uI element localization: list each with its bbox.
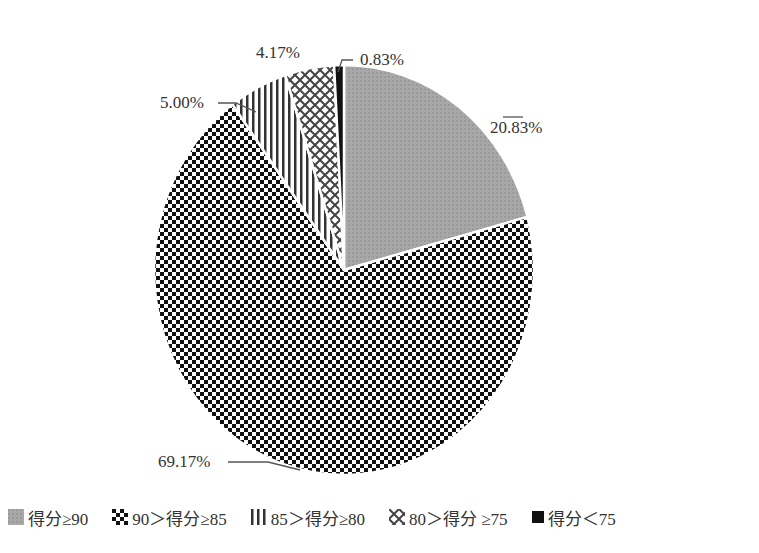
legend-item-4: 得分＜75 bbox=[532, 505, 616, 530]
legend-label: 80＞得分 ≥75 bbox=[409, 505, 508, 530]
slice-label-0: 20.83% bbox=[490, 118, 542, 138]
legend-label: 90＞得分≥85 bbox=[132, 505, 226, 530]
slice-label-4: 0.83% bbox=[360, 50, 404, 70]
legend-item-2: 85＞得分≥80 bbox=[251, 505, 365, 530]
legend-label: 得分≥90 bbox=[28, 505, 88, 530]
legend-item-3: 80＞得分 ≥75 bbox=[389, 505, 508, 530]
swatch-black-icon bbox=[532, 511, 544, 523]
slice-label-1: 69.17% bbox=[158, 452, 210, 472]
slice-label-3: 4.17% bbox=[256, 43, 300, 63]
legend-label: 得分＜75 bbox=[548, 505, 616, 530]
swatch-gray-icon bbox=[8, 509, 24, 525]
legend-label: 85＞得分≥80 bbox=[271, 505, 365, 530]
pie-chart bbox=[0, 0, 759, 500]
legend-item-1: 90＞得分≥85 bbox=[112, 505, 226, 530]
legend-item-0: 得分≥90 bbox=[8, 505, 88, 530]
legend: 得分≥90 90＞得分≥85 85＞得分≥80 80＞得分 ≥75 得分＜75 bbox=[8, 505, 640, 529]
swatch-checker-icon bbox=[112, 509, 128, 525]
pie-slices bbox=[154, 65, 534, 475]
slice-label-2: 5.00% bbox=[160, 93, 204, 113]
swatch-vertical-lines-icon bbox=[251, 509, 267, 525]
swatch-crosshatch-icon bbox=[389, 509, 405, 525]
